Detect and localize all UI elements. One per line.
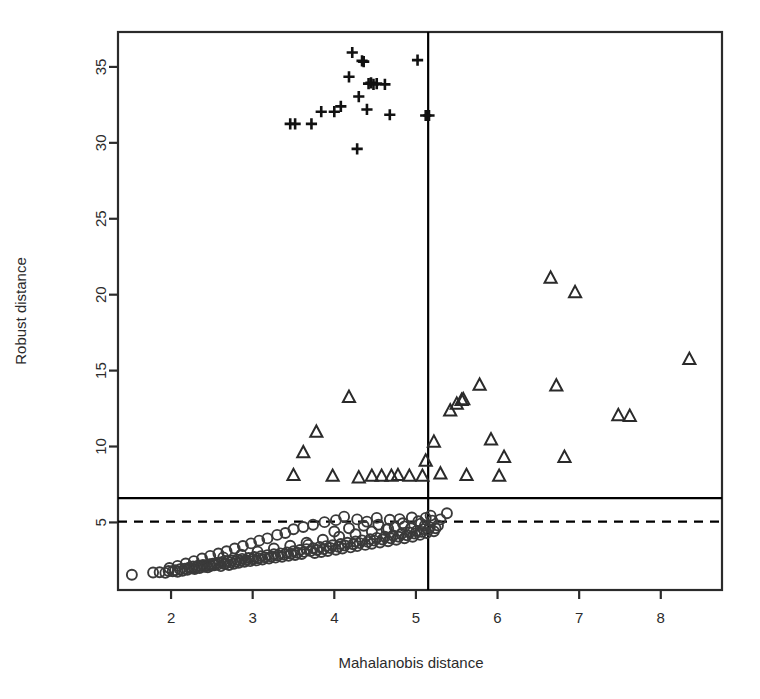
y-tick-label: 35 — [93, 59, 110, 76]
y-tick-label: 25 — [93, 210, 110, 227]
x-tick-label: 6 — [493, 609, 501, 626]
x-tick-label: 4 — [330, 609, 338, 626]
y-tick-label: 5 — [93, 518, 110, 526]
x-tick-label: 7 — [575, 609, 583, 626]
y-axis-title: Robust distance — [12, 257, 29, 365]
y-tick-label: 20 — [93, 286, 110, 303]
x-tick-label: 5 — [412, 609, 420, 626]
x-tick-label: 2 — [167, 609, 175, 626]
y-tick-label: 10 — [93, 438, 110, 455]
x-axis-title: Mahalanobis distance — [338, 654, 483, 671]
chart-figure: 2345678 5101520253035 Mahalanobis distan… — [0, 0, 760, 699]
x-tick-label: 3 — [249, 609, 257, 626]
y-tick-label: 30 — [93, 134, 110, 151]
x-tick-label: 8 — [657, 609, 665, 626]
y-tick-label: 15 — [93, 362, 110, 379]
scatter-plot-canvas: 2345678 5101520253035 Mahalanobis distan… — [0, 0, 760, 699]
plot-background — [0, 0, 760, 699]
